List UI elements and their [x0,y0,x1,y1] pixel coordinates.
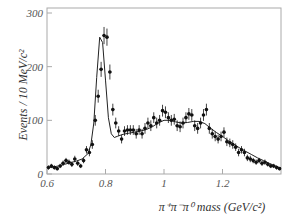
data-point [178,125,182,129]
data-point [76,161,80,165]
data-points [47,27,282,170]
data-point [278,167,282,171]
data-point [199,121,203,125]
data-point [190,113,194,117]
data-point [105,35,109,39]
data-point [131,128,135,132]
plot-frame [47,8,281,174]
data-point [202,113,206,117]
data-point [70,163,74,167]
fit-curve [47,37,281,168]
data-point [111,108,115,112]
data-point [134,132,138,136]
data-point [243,151,247,155]
data-point [219,135,223,139]
x-tick-label: 1.2 [216,177,230,189]
data-point [216,137,220,141]
y-tick-label: 300 [26,7,44,19]
data-point [149,124,153,128]
data-point [164,110,168,114]
data-point [99,68,103,72]
data-point [205,108,209,112]
data-point [88,151,92,155]
data-point [208,127,212,131]
data-point [222,130,226,134]
data-point [108,70,112,74]
data-point [158,119,162,123]
data-point [210,132,214,136]
data-point [193,124,197,128]
data-point [91,143,95,147]
data-point [61,161,65,165]
data-point [114,121,118,125]
data-point [93,119,97,123]
data-point [155,121,159,125]
data-point [137,128,141,132]
data-point [82,159,86,163]
data-point [237,151,241,155]
data-point [146,121,150,125]
data-point [231,143,235,147]
data-point [120,137,124,141]
data-point [73,157,77,161]
data-point [257,159,261,163]
x-tick-label: 1 [161,177,167,189]
data-point [79,164,83,168]
y-axis-label: Events / 10 MeV/c² [16,49,30,142]
data-point [234,145,238,149]
data-point [58,164,62,168]
data-point [172,117,176,121]
chart: 0100200300 0.60.811.2 Events / 10 MeV/c²… [0,0,290,224]
data-point [240,148,244,152]
data-point [184,116,188,120]
x-axis-ticks: 0.60.811.2 [40,169,230,189]
data-point [140,132,144,136]
x-tick-label: 0.8 [99,177,113,189]
data-point [196,127,200,131]
data-point [263,160,267,164]
data-point [85,148,89,152]
x-tick-label: 0.6 [40,177,54,189]
data-point [117,129,121,133]
data-point [96,94,100,98]
data-point [55,167,59,171]
data-point [67,160,71,164]
data-point [213,135,217,139]
data-point [167,116,171,120]
data-point [152,116,156,120]
data-point [143,127,147,131]
data-point [181,121,185,125]
x-axis-label: π⁺π⁻π⁰ mass (GeV/c²) [159,200,266,214]
